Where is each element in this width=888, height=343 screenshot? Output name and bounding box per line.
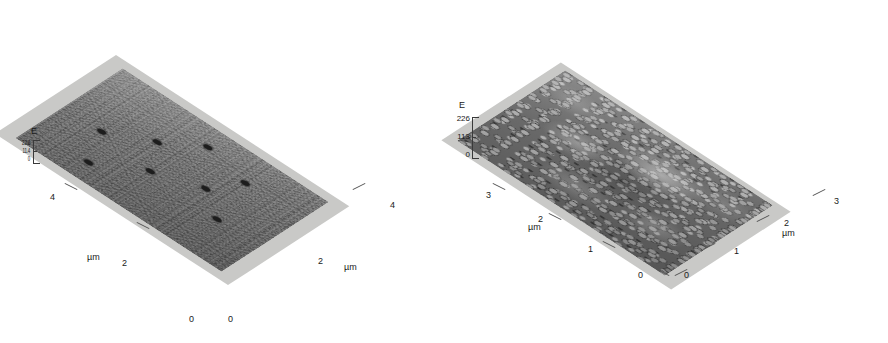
right-axis-unit: µm <box>344 262 357 272</box>
left-axis-unit: µm <box>87 252 100 262</box>
right-axis-tick-2: 2 <box>318 256 323 266</box>
left-z-axis-label: E <box>31 126 37 136</box>
left-axis-tick-0: 0 <box>638 270 643 280</box>
right-axis-tick-2: 2 <box>784 218 789 228</box>
right-z-axis-label: E <box>459 100 465 110</box>
right-axis-tickmark <box>353 183 366 190</box>
left-axis-tickmark <box>493 183 506 190</box>
left-axis-tick-1: 1 <box>588 244 593 254</box>
right-axis-tick-4: 4 <box>390 200 395 210</box>
right-panel-stage: E 226 113 0 3 2 1 0 µm 3 2 1 0 µm <box>444 0 888 343</box>
right-z-tick-value: 0 <box>444 150 470 159</box>
right-z-tick-value: 226 <box>444 114 470 123</box>
afm-figure: E 22.8 11.4 0 4 2 0 µm 4 2 0 µm <box>0 0 888 343</box>
left-axis-tick-3: 3 <box>486 190 491 200</box>
left-axis-tick-4: 4 <box>50 192 55 202</box>
left-z-tick-value: 0 <box>14 154 31 163</box>
right-z-axis: E 226 113 0 <box>444 100 510 162</box>
right-axis-tick-0: 0 <box>684 270 689 280</box>
left-z-axis-tickmark <box>33 151 37 152</box>
right-axis-tickmark <box>813 189 826 196</box>
right-axis-tick-3: 3 <box>834 196 839 206</box>
right-z-axis-tickmark <box>472 137 476 138</box>
left-z-axis: E 22.8 11.4 0 <box>0 126 60 166</box>
right-axis-unit: µm <box>782 228 795 238</box>
right-z-tick-value: 113 <box>444 132 470 141</box>
right-z-axis-bracket <box>472 117 479 159</box>
right-axis-tick-0: 0 <box>228 314 233 324</box>
left-panel-stage: E 22.8 11.4 0 4 2 0 µm 4 2 0 µm <box>0 0 444 343</box>
right-axis-tick-1: 1 <box>734 246 739 256</box>
left-axis-tick-2: 2 <box>122 258 127 268</box>
afm-panel-left: E 22.8 11.4 0 4 2 0 µm 4 2 0 µm <box>0 0 444 343</box>
left-axis-unit: µm <box>528 222 541 232</box>
left-z-axis-bracket <box>33 140 40 164</box>
afm-panel-right: E 226 113 0 3 2 1 0 µm 3 2 1 0 µm <box>444 0 888 343</box>
left-axis-tick-0: 0 <box>189 314 194 324</box>
